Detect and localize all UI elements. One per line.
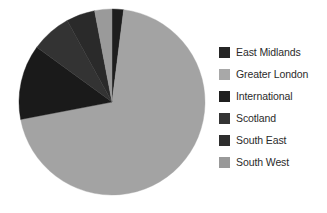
legend-label-greater-london: Greater London: [236, 69, 308, 80]
legend-swatch-greater-london: [219, 69, 230, 80]
legend-label-scotland: Scotland: [236, 113, 276, 124]
legend-swatch-scotland: [219, 113, 230, 124]
pie-slice-group: [19, 9, 205, 195]
legend-item-international[interactable]: International: [219, 85, 327, 107]
legend-swatch-international: [219, 91, 230, 102]
legend-item-south-west[interactable]: South West: [219, 151, 327, 173]
legend-swatch-south-west: [219, 157, 230, 168]
legend-label-south-east: South East: [236, 135, 286, 146]
legend-item-south-east[interactable]: South East: [219, 129, 327, 151]
pie-chart-figure: East Midlands Greater London Internation…: [0, 0, 327, 213]
legend-item-greater-london[interactable]: Greater London: [219, 63, 327, 85]
pie-svg: [18, 8, 206, 196]
legend-item-east-midlands[interactable]: East Midlands: [219, 41, 327, 63]
legend-label-east-midlands: East Midlands: [236, 47, 301, 58]
legend-item-scotland[interactable]: Scotland: [219, 107, 327, 129]
legend-label-international: International: [236, 91, 293, 102]
chart-legend: East Midlands Greater London Internation…: [219, 41, 327, 173]
legend-label-south-west: South West: [236, 157, 289, 168]
legend-swatch-south-east: [219, 135, 230, 146]
legend-swatch-east-midlands: [219, 47, 230, 58]
pie-plot-area: [18, 8, 206, 196]
